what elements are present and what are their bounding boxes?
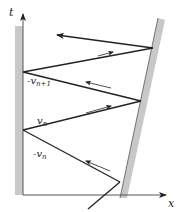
arrow-left-middle — [86, 82, 111, 88]
x-axis-label: x — [168, 197, 175, 210]
t-axis-label: t — [9, 6, 14, 19]
label-neg-v-n-plus-1: -vn+1 — [27, 75, 51, 88]
left-wall — [15, 26, 23, 195]
label-neg-v-n: -vn — [33, 148, 47, 161]
bouncing-particle-diagram: t x -vn+1 vn -vn — [0, 0, 180, 212]
right-wall-edge — [120, 18, 158, 198]
